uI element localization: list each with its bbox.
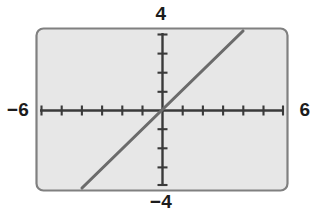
- graph-plot-area: [0, 0, 322, 214]
- coordinate-plane-figure: 4 −4 −6 6: [0, 0, 322, 214]
